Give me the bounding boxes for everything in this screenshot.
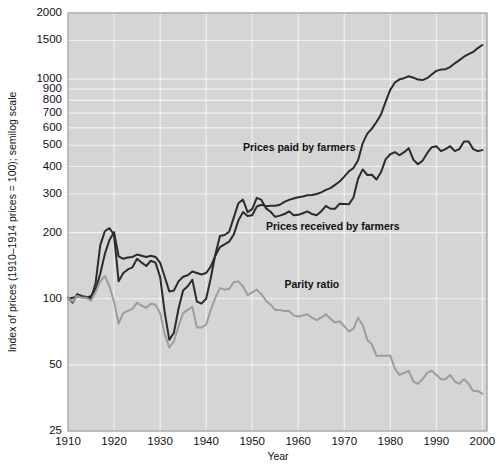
x-tick-label: 1990 <box>424 435 450 447</box>
y-tick-label: 700 <box>43 106 62 118</box>
farm-price-index-chart: 2550100200300400500600700800900100015002… <box>0 0 499 466</box>
y-tick-label: 200 <box>43 226 62 238</box>
series-annotation: Parity ratio <box>284 278 339 290</box>
x-tick-label: 1920 <box>101 435 127 447</box>
x-tick-label: 1940 <box>193 435 219 447</box>
y-tick-label: 400 <box>43 160 62 172</box>
x-tick-label: 1970 <box>331 435 357 447</box>
y-tick-label: 1500 <box>36 33 62 45</box>
y-tick-label: 600 <box>43 121 62 133</box>
y-tick-label: 50 <box>49 358 62 370</box>
y-tick-label: 2000 <box>36 6 62 18</box>
y-tick-label: 1000 <box>36 72 62 84</box>
series-annotation: Prices paid by farmers <box>243 141 356 153</box>
series-annotation: Prices received by farmers <box>266 220 400 232</box>
x-tick-label: 1980 <box>378 435 404 447</box>
x-tick-label: 1950 <box>239 435 265 447</box>
x-axis-title: Year <box>267 450 289 462</box>
y-tick-label: 800 <box>43 93 62 105</box>
x-tick-label: 1910 <box>55 435 81 447</box>
y-axis-title: Index of prices (1910–1914 prices = 100)… <box>6 92 18 353</box>
chart-container: 2550100200300400500600700800900100015002… <box>0 0 499 466</box>
y-tick-label: 500 <box>43 138 62 150</box>
y-tick-label: 300 <box>43 187 62 199</box>
y-tick-label: 100 <box>43 292 62 304</box>
x-tick-label: 1960 <box>285 435 311 447</box>
x-tick-label: 2000 <box>470 435 496 447</box>
x-tick-label: 1930 <box>147 435 173 447</box>
